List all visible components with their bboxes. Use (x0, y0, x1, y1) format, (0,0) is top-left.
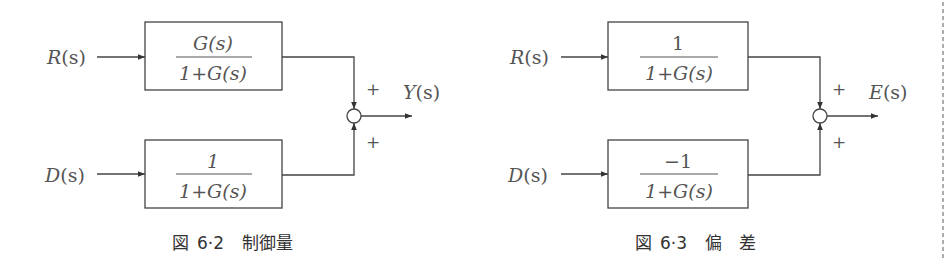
sum-sign-bottom: + (832, 132, 846, 152)
block-top-numerator: G(s) (193, 32, 233, 54)
input-d-label: D(s) (44, 164, 85, 186)
block-top-numerator: 1 (672, 32, 684, 54)
block-top-denominator: 1+G(s) (645, 62, 713, 84)
block-bottom-numerator: −1 (664, 150, 692, 172)
bottom-to-sum-line (282, 123, 354, 175)
input-r-label: R(s) (509, 46, 549, 68)
summing-junction (813, 109, 827, 123)
input-r-label: R(s) (46, 46, 86, 68)
sum-sign-bottom: + (366, 132, 380, 152)
summing-junction (347, 109, 361, 123)
block-top-denominator: 1+G(s) (179, 62, 247, 84)
figure-caption: 図6·2制御量 (172, 233, 293, 253)
output-y-label: Y(s) (403, 81, 440, 103)
block-bottom-numerator: 1 (207, 150, 219, 172)
bottom-to-sum-line (748, 123, 820, 175)
sum-sign-top: + (366, 79, 380, 99)
figure-page: R(s) G(s) 1+G(s) D(s) 1 1+G(s) + + Y(s) … (0, 0, 947, 262)
sum-sign-top: + (832, 79, 846, 99)
figure-6-3: R(s) 1 1+G(s) D(s) −1 1+G(s) + + E(s) 図6… (507, 22, 907, 253)
output-e-label: E(s) (868, 81, 907, 103)
top-to-sum-line (282, 57, 354, 109)
block-bottom-denominator: 1+G(s) (645, 180, 713, 202)
figure-caption: 図6·3偏 差 (635, 233, 756, 253)
block-bottom-denominator: 1+G(s) (179, 180, 247, 202)
figure-6-2: R(s) G(s) 1+G(s) D(s) 1 1+G(s) + + Y(s) … (44, 22, 440, 253)
top-to-sum-line (748, 57, 820, 109)
input-d-label: D(s) (507, 164, 548, 186)
block-diagrams-canvas: R(s) G(s) 1+G(s) D(s) 1 1+G(s) + + Y(s) … (0, 0, 947, 262)
